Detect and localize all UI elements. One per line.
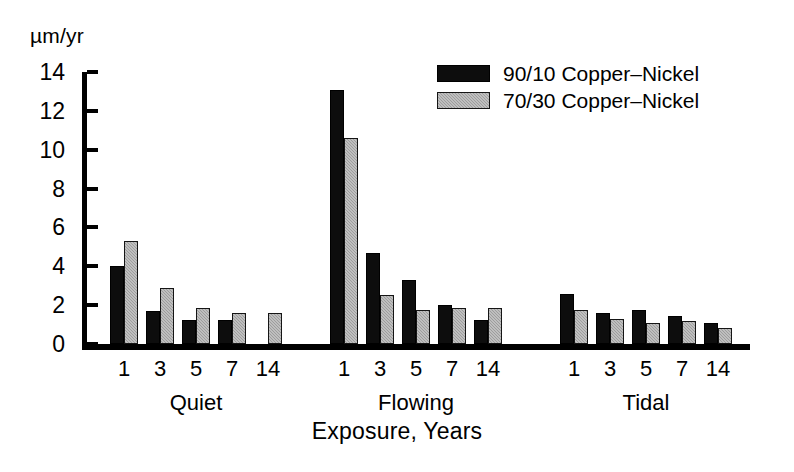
bar [182,320,196,344]
bar-chart-figure: µm/yr 02468101214 135714135714135714 Qui… [0,0,794,472]
y-axis-tick-label: 10 [39,138,65,161]
x-axis-tick-label: 14 [476,358,500,380]
y-axis-tick-label: 2 [52,294,65,317]
y-axis-tick [87,70,98,74]
legend-swatch-icon-gray [437,92,490,109]
bar [474,320,488,344]
x-axis-tick-label: 3 [604,358,616,380]
x-axis-tick-label: 5 [640,358,652,380]
x-axis-tick-label: 1 [338,358,350,380]
bar [452,308,466,344]
bar [232,313,246,344]
x-axis-tick-label: 7 [676,358,688,380]
x-axis-title: Exposure, Years [0,418,794,445]
bar [416,310,430,344]
bar [704,323,718,344]
x-axis-tick-label: 7 [226,358,238,380]
bar [646,323,660,344]
bar [218,320,232,344]
y-axis-tick-label: 0 [52,333,65,356]
x-axis-tick-label: 1 [118,358,130,380]
bar [402,280,416,344]
y-axis-tick-label: 4 [52,255,65,278]
bar [160,288,174,344]
bar [682,321,696,344]
bar [438,305,452,344]
bar [560,294,574,344]
bar [610,319,624,344]
y-axis-tick [87,148,98,152]
x-axis-group-label: Quiet [170,392,223,414]
x-axis-tick-label: 14 [706,358,730,380]
x-axis-tick-label: 5 [410,358,422,380]
x-axis-tick-label: 3 [374,358,386,380]
x-axis-group-label: Tidal [623,392,670,414]
legend-item-90-10: 90/10 Copper–Nickel [437,62,699,85]
bar [330,90,344,345]
legend-label-90-10: 90/10 Copper–Nickel [503,63,699,84]
x-axis-spine [82,344,750,350]
x-axis-tick-label: 3 [154,358,166,380]
bar [268,313,282,344]
y-axis-tick [87,187,98,191]
y-axis-tick [87,225,98,229]
x-axis-tick-label: 7 [446,358,458,380]
bar [196,308,210,344]
legend-swatch-icon-black [437,65,490,82]
x-axis-tick-label: 5 [190,358,202,380]
bar [668,316,682,344]
bar [632,310,646,344]
x-axis-tick-label: 14 [256,358,280,380]
x-axis-group-label: Flowing [378,392,454,414]
legend-item-70-30: 70/30 Copper–Nickel [437,89,699,112]
y-axis-tick [87,303,98,307]
y-axis-tick-label: 14 [39,61,65,84]
bar [146,311,160,344]
bar [574,310,588,344]
bar [124,241,138,344]
y-axis-tick-label: 12 [39,99,65,122]
x-axis-tick-label: 1 [568,358,580,380]
chart-legend: 90/10 Copper–Nickel 70/30 Copper–Nickel [437,62,699,116]
bar [380,295,394,344]
y-axis-tick [87,342,98,346]
bar [718,328,732,345]
bar [344,138,358,344]
y-axis-unit-label: µm/yr [30,24,84,48]
bar [488,308,502,344]
y-axis-tick [87,264,98,268]
legend-label-70-30: 70/30 Copper–Nickel [503,90,699,111]
bar [366,253,380,344]
y-axis-tick-label: 8 [52,177,65,200]
bar [110,266,124,344]
bar [596,313,610,344]
y-axis-tick-label: 6 [52,216,65,239]
y-axis-tick [87,109,98,113]
